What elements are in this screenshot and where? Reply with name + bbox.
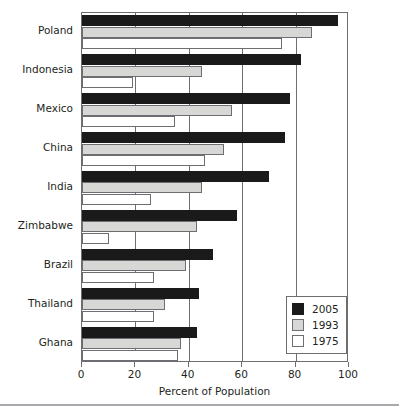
x-tick-label: 60 [221, 368, 261, 380]
bar-brazil-2005 [82, 249, 213, 260]
y-label-brazil: Brazil [0, 258, 73, 270]
bar-poland-1993 [82, 27, 312, 38]
bar-brazil-1993 [82, 260, 186, 271]
bar-thailand-2005 [82, 288, 199, 299]
y-label-ghana: Ghana [0, 336, 73, 348]
bar-zimbabwe-1993 [82, 221, 197, 232]
bar-india-1993 [82, 182, 202, 193]
y-label-china: China [0, 141, 73, 153]
x-tick [188, 362, 189, 367]
bar-ghana-2005 [82, 327, 197, 338]
bar-group [82, 130, 347, 169]
bar-china-1993 [82, 144, 224, 155]
x-tick-label: 100 [328, 368, 368, 380]
bar-china-2005 [82, 132, 285, 143]
y-label-poland: Poland [0, 24, 73, 36]
legend-label-1993: 1993 [312, 320, 339, 331]
bar-zimbabwe-2005 [82, 210, 237, 221]
bar-mexico-2005 [82, 93, 290, 104]
legend-label-2005: 2005 [312, 304, 339, 315]
bar-indonesia-1975 [82, 77, 133, 88]
bar-indonesia-2005 [82, 54, 301, 65]
x-tick-label: 0 [61, 368, 101, 380]
bar-poland-1975 [82, 38, 282, 49]
bar-mexico-1993 [82, 105, 232, 116]
bar-mexico-1975 [82, 116, 175, 127]
bar-china-1975 [82, 155, 205, 166]
white-swatch-icon [292, 335, 304, 347]
bar-ghana-1993 [82, 338, 181, 349]
bar-poland-2005 [82, 15, 338, 26]
bar-zimbabwe-1975 [82, 233, 109, 244]
y-label-india: India [0, 180, 73, 192]
bar-group [82, 169, 347, 208]
x-tick [295, 362, 296, 367]
legend-item-1993: 1993 [292, 317, 339, 333]
black-swatch-icon [292, 303, 304, 315]
bar-group [82, 13, 347, 52]
bar-india-2005 [82, 171, 269, 182]
chart-figure: PolandIndonesiaMexicoChinaIndiaZimbabweB… [0, 0, 399, 413]
x-tick [81, 362, 82, 367]
bar-thailand-1993 [82, 299, 165, 310]
bar-group [82, 207, 347, 246]
x-tick [134, 362, 135, 367]
gray-swatch-icon [292, 319, 304, 331]
legend-label-1975: 1975 [312, 336, 339, 347]
y-label-zimbabwe: Zimbabwe [0, 219, 73, 231]
bar-ghana-1975 [82, 350, 178, 361]
legend-item-2005: 2005 [292, 301, 339, 317]
bar-group [82, 246, 347, 285]
bottom-divider [0, 404, 399, 406]
chart-legend: 2005 1993 1975 [286, 296, 347, 354]
bar-group [82, 52, 347, 91]
x-tick-label: 20 [114, 368, 154, 380]
y-label-mexico: Mexico [0, 102, 73, 114]
x-tick [241, 362, 242, 367]
x-tick-label: 40 [168, 368, 208, 380]
bar-india-1975 [82, 194, 151, 205]
y-label-thailand: Thailand [0, 297, 73, 309]
bar-group [82, 91, 347, 130]
x-tick-label: 80 [275, 368, 315, 380]
legend-item-1975: 1975 [292, 333, 339, 349]
x-tick [348, 362, 349, 367]
x-axis-title: Percent of Population [81, 385, 348, 397]
y-label-indonesia: Indonesia [0, 63, 73, 75]
bar-thailand-1975 [82, 311, 154, 322]
bar-indonesia-1993 [82, 66, 202, 77]
bar-brazil-1975 [82, 272, 154, 283]
